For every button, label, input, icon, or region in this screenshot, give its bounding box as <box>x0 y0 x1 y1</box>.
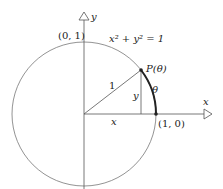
point-p <box>139 68 143 72</box>
diagram-canvas: y x (0, 1) x² + y² = 1 P(θ) 1 y θ x (1, … <box>0 0 223 189</box>
right-point-label: (1, 0) <box>158 118 185 129</box>
theta-label: θ <box>152 84 158 95</box>
y-leg-label: y <box>132 90 139 101</box>
equation-label: x² + y² = 1 <box>109 33 164 44</box>
y-axis-label: y <box>90 11 97 22</box>
x-axis-label: x <box>203 96 209 107</box>
x-leg-label: x <box>111 116 117 127</box>
x-axis-arrow-icon <box>204 109 212 119</box>
unit-circle-diagram: y x (0, 1) x² + y² = 1 P(θ) 1 y θ x (1, … <box>0 0 223 189</box>
top-point-label: (0, 1) <box>58 30 85 41</box>
y-axis-arrow-icon <box>79 12 89 20</box>
point-p-label: P(θ) <box>145 63 167 74</box>
radius-label: 1 <box>109 80 115 91</box>
point-1-0 <box>154 112 158 116</box>
